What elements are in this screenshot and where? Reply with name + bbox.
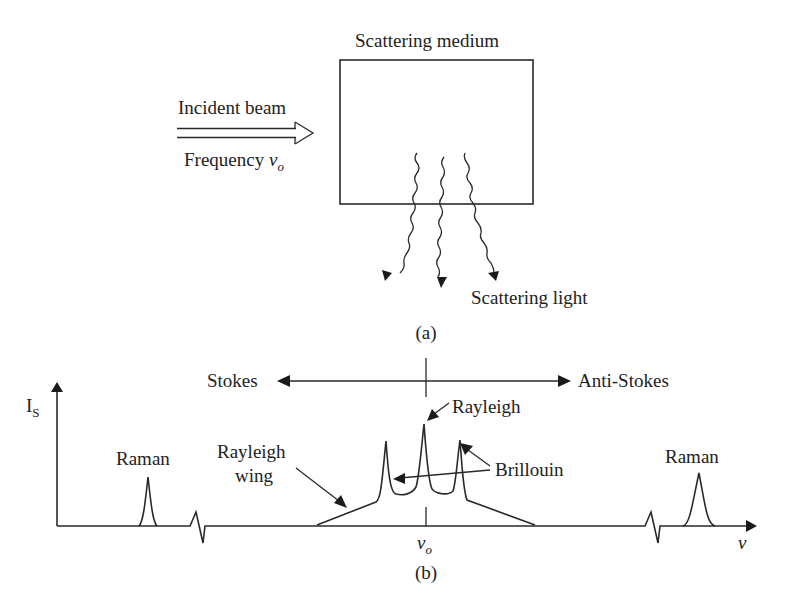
brillouin-pointer-left	[400, 470, 490, 478]
x-axis	[57, 512, 757, 543]
y-axis-arrowhead-icon	[51, 382, 63, 392]
brillouin-left-arrowhead-icon	[393, 473, 405, 484]
rayleigh-label: Rayleigh	[452, 396, 521, 417]
ray-arrowhead-icon	[488, 271, 499, 281]
incident-beam-arrow-icon	[177, 122, 313, 144]
raman-peak-left	[139, 477, 157, 526]
nu-subscript: o	[277, 159, 284, 174]
rayleigh-pointer	[434, 403, 449, 414]
ray-arrowhead-icon	[437, 277, 447, 288]
rayleigh-wing-arrowhead-icon	[334, 495, 347, 508]
wavy-ray-left	[400, 153, 419, 273]
caption-a: (a)	[415, 322, 436, 344]
raman-left-label: Raman	[116, 448, 170, 469]
stokes-label: Stokes	[207, 370, 258, 391]
y-axis-label: IS	[26, 395, 40, 420]
rayleigh-arrowhead-icon	[427, 409, 439, 421]
x-axis-label: ν	[738, 532, 747, 553]
scattered-rays	[382, 153, 499, 288]
brillouin-right-arrowhead-icon	[460, 443, 473, 455]
panel-a: Scattering medium Incident beam Frequenc…	[177, 30, 588, 344]
wavy-ray-right	[464, 153, 494, 273]
caption-b: (b)	[415, 562, 437, 584]
brillouin-label: Brillouin	[495, 459, 564, 480]
right-arrowhead-icon	[558, 375, 571, 387]
brillouin-pointer-right	[468, 450, 490, 466]
scattering-medium-box	[340, 60, 533, 204]
raman-right-label: Raman	[665, 446, 719, 467]
incident-beam-label: Incident beam	[178, 97, 286, 118]
rayleigh-wing-label-line2: wing	[235, 465, 274, 486]
wavy-ray-middle	[437, 157, 445, 277]
scattering-medium-label: Scattering medium	[355, 30, 499, 51]
rayleigh-wing-pointer	[296, 468, 339, 501]
ray-arrowhead-icon	[382, 270, 392, 281]
scattering-light-label: Scattering light	[471, 287, 588, 308]
left-arrowhead-icon	[277, 375, 290, 387]
scattering-diagram: Scattering medium Incident beam Frequenc…	[0, 0, 787, 615]
rayleigh-wing-label-line1: Rayleigh	[217, 441, 286, 462]
y-axis-subscript: S	[32, 405, 39, 420]
frequency-label: Frequency νo	[184, 149, 284, 174]
center-frequency-label: νo	[417, 532, 432, 557]
anti-stokes-label: Anti-Stokes	[578, 370, 669, 391]
panel-b: IS ν Raman Raman νo Stokes Anti-Stokes R…	[26, 358, 757, 584]
frequency-text: Frequency	[184, 149, 269, 170]
x-axis-arrowhead-icon	[746, 520, 757, 532]
raman-peak-right	[683, 473, 715, 526]
nu-subscript: o	[425, 542, 432, 557]
